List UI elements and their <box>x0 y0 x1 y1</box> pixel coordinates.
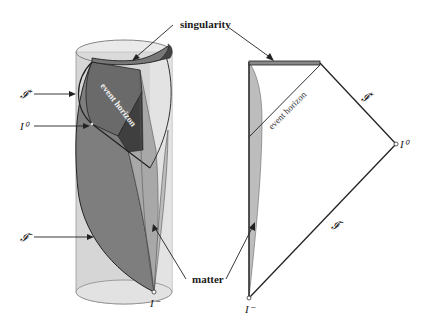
svg-text:matter: matter <box>192 273 224 285</box>
right-i0-point <box>394 142 398 146</box>
right-scri-plus-label: 𝓘⁺ <box>361 91 374 103</box>
svg-text:I⁰: I⁰ <box>19 120 30 132</box>
right-scri-minus-line <box>249 144 396 298</box>
right-matter-region <box>249 62 262 298</box>
left-i-minus-point <box>152 290 156 294</box>
right-i-minus-point <box>247 296 251 300</box>
right-i0-label: I⁰ <box>399 138 410 150</box>
right-scri-plus-line <box>320 63 396 144</box>
left-i-minus-label: I⁻ <box>149 297 161 309</box>
cylinder-diagram: event horizon I⁻ 𝓘⁺ I⁰ 𝓘⁻ <box>19 40 172 309</box>
diagram-svg: event horizon I⁻ 𝓘⁺ I⁰ 𝓘⁻ <box>0 0 427 324</box>
right-i-minus-label: I⁻ <box>244 303 256 315</box>
figure-canvas: event horizon I⁻ 𝓘⁺ I⁰ 𝓘⁻ <box>0 0 427 324</box>
svg-text:𝓘⁺: 𝓘⁺ <box>20 88 33 100</box>
right-scri-minus-label: 𝓘⁻ <box>331 219 344 231</box>
left-scri-plus-annotation: 𝓘⁺ <box>20 88 76 100</box>
penrose-diagram: I⁰ I⁻ 𝓘⁺ 𝓘⁻ event horizon <box>244 61 410 315</box>
svg-text:singularity: singularity <box>180 18 231 30</box>
right-event-horizon-label: event horizon <box>266 89 308 131</box>
right-singularity-bar <box>249 61 320 65</box>
svg-text:𝓘⁻: 𝓘⁻ <box>20 231 33 243</box>
left-i0-point <box>91 123 94 126</box>
